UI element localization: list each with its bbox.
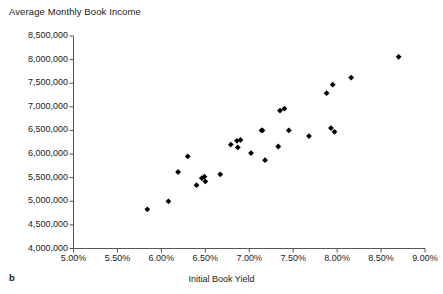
y-tick-label: 5,500,000 <box>5 172 68 182</box>
y-tick-label: 4,500,000 <box>5 219 68 229</box>
data-point <box>262 157 268 163</box>
data-point <box>324 90 330 96</box>
data-point <box>286 128 292 134</box>
data-point <box>144 206 150 212</box>
data-point <box>228 142 234 148</box>
x-axis-title: Initial Book Yield <box>0 274 443 284</box>
data-point <box>235 145 241 151</box>
panel-label: b <box>9 272 15 283</box>
y-tick-label: 6,000,000 <box>5 148 68 158</box>
y-tick-label: 6,500,000 <box>5 124 68 134</box>
y-tick-label: 7,500,000 <box>5 77 68 87</box>
data-point <box>185 154 191 160</box>
data-point <box>175 169 181 175</box>
data-point <box>275 144 281 150</box>
y-axis-ticks <box>70 36 74 249</box>
data-point <box>348 75 354 81</box>
data-point <box>166 198 172 204</box>
data-point <box>217 171 223 177</box>
y-tick-label: 5,000,000 <box>5 195 68 205</box>
data-point <box>328 125 334 131</box>
x-tick-label: 9.00% <box>395 253 443 263</box>
y-tick-label: 7,000,000 <box>5 101 68 111</box>
data-point <box>248 150 254 156</box>
scatter-chart: Average Monthly Book Income 4,000,0004,5… <box>0 0 443 294</box>
y-tick-label: 8,500,000 <box>5 30 68 40</box>
data-point-markers <box>144 54 401 212</box>
data-point <box>306 133 312 139</box>
x-axis-ticks <box>74 249 426 253</box>
data-point <box>330 82 336 88</box>
y-tick-label: 8,000,000 <box>5 54 68 64</box>
axis-lines <box>73 36 425 249</box>
data-point <box>396 54 402 60</box>
data-point <box>260 128 266 134</box>
y-tick-label: 4,000,000 <box>5 243 68 253</box>
data-point <box>332 129 338 135</box>
data-point <box>194 182 200 188</box>
